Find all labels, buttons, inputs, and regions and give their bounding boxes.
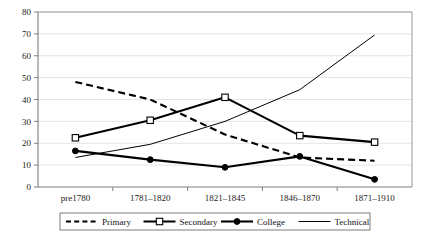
line-chart: 01020304050607080 pre17801781–18201821–1…	[0, 0, 429, 249]
x-tick-label: 1821–1845	[205, 193, 246, 203]
y-tick-label: 20	[22, 138, 32, 148]
marker-college	[297, 153, 303, 159]
y-axis-tick-labels: 01020304050607080	[22, 7, 32, 192]
y-tick-label: 50	[22, 73, 32, 83]
chart-legend: PrimarySecondaryCollegeTechnical	[60, 213, 370, 230]
y-tick-label: 30	[22, 117, 32, 127]
marker-college	[73, 148, 79, 154]
x-tick-label: 1871–1910	[354, 193, 395, 203]
y-tick-label: 60	[22, 51, 32, 61]
y-tick-label: 70	[22, 29, 32, 39]
marker-secondary	[147, 117, 153, 123]
x-tick-label: pre1780	[61, 193, 91, 203]
x-tick-label: 1781–1820	[130, 193, 171, 203]
marker-secondary	[222, 94, 228, 100]
y-tick-label: 10	[22, 160, 32, 170]
marker-secondary	[72, 135, 78, 141]
y-tick-label: 80	[22, 7, 32, 17]
marker-secondary	[371, 139, 377, 145]
legend-marker-college	[234, 219, 240, 225]
legend-label-primary: Primary	[102, 217, 131, 227]
legend-label-college: College	[257, 217, 285, 227]
marker-college	[372, 176, 378, 182]
chart-figure: 01020304050607080 pre17801781–18201821–1…	[0, 0, 429, 249]
marker-college	[147, 157, 153, 163]
marker-college	[222, 164, 228, 170]
y-tick-label: 40	[22, 95, 32, 105]
legend-marker-secondary	[156, 218, 162, 224]
legend-label-secondary: Secondary	[180, 217, 218, 227]
marker-secondary	[297, 132, 303, 138]
y-tick-label: 0	[27, 182, 32, 192]
x-tick-label: 1846–1870	[280, 193, 321, 203]
legend-label-technical: Technical	[335, 217, 370, 227]
